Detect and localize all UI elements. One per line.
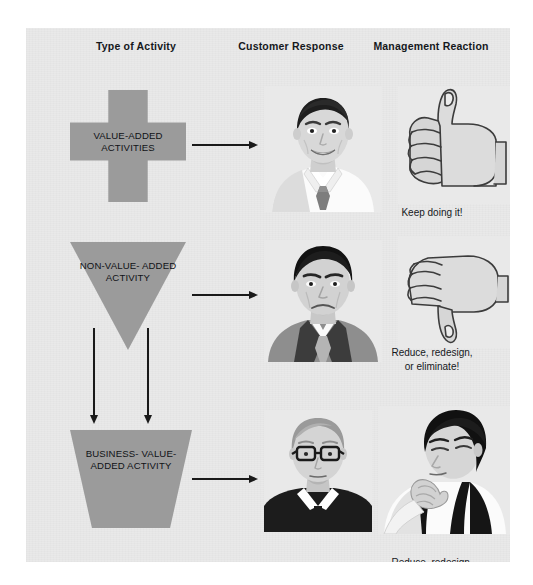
customer-portrait-neutral xyxy=(264,410,372,532)
diagram-panel: Type of Activity Customer Response Manag… xyxy=(26,28,510,562)
arrow-head-icon xyxy=(249,291,258,299)
caption-reduce-redesign-row-2: Reduce, redesign, or eliminate! xyxy=(356,346,508,373)
shape-cross-value-added: VALUE-ADDED ACTIVITIES xyxy=(70,90,186,202)
inverted-triangle-icon xyxy=(70,242,186,350)
diagram-page: Type of Activity Customer Response Manag… xyxy=(0,0,533,585)
column-header-customer-response: Customer Response xyxy=(216,40,366,52)
management-pensive-man xyxy=(378,406,510,534)
column-header-type-of-activity: Type of Activity xyxy=(54,40,218,52)
caption-reduce-redesign-row-3: Reduce, redesign, or eliminate! xyxy=(356,556,508,562)
shape-triangle-non-value-added: NON-VALUE- ADDED ACTIVITY xyxy=(70,242,186,350)
arrow-shaft xyxy=(192,478,251,480)
arrow-head-icon xyxy=(249,141,258,149)
arrow-triangle-to-trapezoid-right xyxy=(143,328,153,424)
arrow-shaft xyxy=(192,294,251,296)
arrow-head-icon xyxy=(90,415,98,424)
trapezoid-icon xyxy=(70,430,192,528)
caption-keep-doing-it: Keep doing it! xyxy=(356,206,508,220)
cross-icon xyxy=(70,90,186,202)
customer-portrait-pleased xyxy=(264,86,382,212)
customer-portrait-displeased xyxy=(264,240,382,362)
management-hand-thumbs-down xyxy=(398,236,510,348)
column-header-management-reaction: Management Reaction xyxy=(356,40,506,52)
arrow-head-icon xyxy=(249,475,258,483)
arrow-head-icon xyxy=(144,415,152,424)
arrow-activity-to-customer-row-3 xyxy=(192,474,258,484)
management-hand-thumbs-up xyxy=(398,86,510,204)
arrow-activity-to-customer-row-1 xyxy=(192,140,258,150)
arrow-shaft xyxy=(147,328,149,417)
arrow-triangle-to-trapezoid-left xyxy=(89,328,99,424)
shape-trapezoid-business-value-added: BUSINESS- VALUE- ADDED ACTIVITY xyxy=(70,430,192,528)
arrow-activity-to-customer-row-2 xyxy=(192,290,258,300)
arrow-shaft xyxy=(192,144,251,146)
arrow-shaft xyxy=(93,328,95,417)
